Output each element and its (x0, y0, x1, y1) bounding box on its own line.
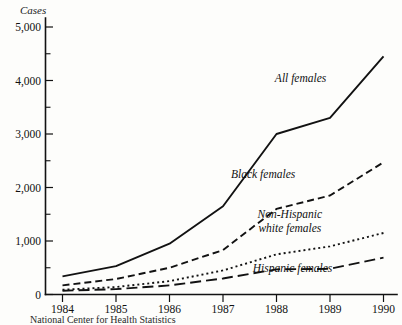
y-label-5000: 5,000 (15, 21, 41, 34)
series-line-non-hispanic-white-females (63, 233, 384, 290)
y-axis-tick-labels: 0 1,000 2,000 3,000 4,000 5,000 (15, 21, 41, 301)
y-axis-label: Cases (20, 4, 46, 16)
series-label-non-hispanic-white-females-line2: white females (258, 222, 321, 235)
x-label-1989: 1989 (319, 303, 342, 315)
series-labels-group: All females Black females Non-Hispanic w… (231, 72, 333, 275)
series-label-hispanic-females: Hispanic females (252, 262, 333, 275)
chart-page: Cases 0 1,000 2,000 3,000 4,000 (0, 0, 402, 325)
y-label-1000: 1,000 (15, 235, 41, 248)
series-label-all-females: All females (274, 72, 327, 85)
series-label-non-hispanic-white-females-line1: Non-Hispanic (257, 208, 323, 221)
series-paths-group (63, 56, 384, 290)
y-label-4000: 4,000 (15, 75, 41, 88)
x-axis-ticks (63, 295, 384, 303)
y-label-2000: 2,000 (15, 182, 41, 195)
x-label-1987: 1987 (212, 303, 235, 315)
series-label-black-females: Black females (231, 168, 296, 181)
series-line-hispanic-females (63, 258, 384, 291)
y-label-3000: 3,000 (15, 128, 41, 141)
x-label-1990: 1990 (372, 303, 395, 315)
y-label-0: 0 (35, 289, 41, 301)
line-chart: Cases 0 1,000 2,000 3,000 4,000 (0, 0, 402, 325)
x-label-1988: 1988 (265, 303, 288, 315)
series-line-all-females (63, 56, 384, 276)
source-caption: National Center for Health Statistics (30, 314, 176, 325)
